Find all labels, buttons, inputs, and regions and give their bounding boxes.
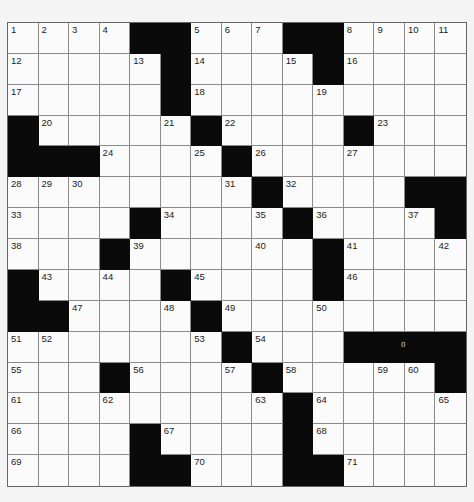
grid-cell[interactable]: [405, 54, 436, 85]
grid-cell[interactable]: [130, 116, 161, 147]
grid-cell[interactable]: [283, 85, 314, 116]
grid-cell[interactable]: 41: [344, 239, 375, 270]
grid-cell[interactable]: [130, 146, 161, 177]
grid-cell[interactable]: [39, 208, 70, 239]
grid-cell[interactable]: [435, 146, 466, 177]
grid-cell[interactable]: 30: [69, 177, 100, 208]
grid-cell[interactable]: 6: [222, 23, 253, 54]
grid-cell[interactable]: 37: [405, 208, 436, 239]
grid-cell[interactable]: 49: [222, 301, 253, 332]
grid-cell[interactable]: 38: [8, 239, 39, 270]
grid-cell[interactable]: 3: [69, 23, 100, 54]
grid-cell[interactable]: [252, 85, 283, 116]
grid-cell[interactable]: [435, 301, 466, 332]
grid-cell[interactable]: 63: [252, 393, 283, 424]
grid-cell[interactable]: 45: [191, 270, 222, 301]
grid-cell[interactable]: 23: [374, 116, 405, 147]
grid-cell[interactable]: 26: [252, 146, 283, 177]
grid-cell[interactable]: [374, 424, 405, 455]
grid-cell[interactable]: 11: [435, 23, 466, 54]
grid-cell[interactable]: [100, 54, 131, 85]
grid-cell[interactable]: [39, 54, 70, 85]
grid-cell[interactable]: 51: [8, 332, 39, 363]
grid-cell[interactable]: [405, 85, 436, 116]
grid-cell[interactable]: [39, 239, 70, 270]
grid-cell[interactable]: [130, 270, 161, 301]
grid-cell[interactable]: [435, 116, 466, 147]
grid-cell[interactable]: [405, 301, 436, 332]
grid-cell[interactable]: 52: [39, 332, 70, 363]
grid-cell[interactable]: [313, 116, 344, 147]
grid-cell[interactable]: [100, 85, 131, 116]
grid-cell[interactable]: 54: [252, 332, 283, 363]
grid-cell[interactable]: 44: [100, 270, 131, 301]
grid-cell[interactable]: [252, 116, 283, 147]
grid-cell[interactable]: 70: [191, 455, 222, 486]
grid-cell[interactable]: [374, 54, 405, 85]
grid-cell[interactable]: [69, 332, 100, 363]
grid-cell[interactable]: [222, 208, 253, 239]
grid-cell[interactable]: [283, 301, 314, 332]
grid-cell[interactable]: [100, 424, 131, 455]
grid-cell[interactable]: 13: [130, 54, 161, 85]
grid-cell[interactable]: 29: [39, 177, 70, 208]
grid-cell[interactable]: 22: [222, 116, 253, 147]
grid-cell[interactable]: [191, 208, 222, 239]
grid-cell[interactable]: [374, 208, 405, 239]
grid-cell[interactable]: [222, 393, 253, 424]
grid-cell[interactable]: [283, 116, 314, 147]
grid-cell[interactable]: [161, 177, 192, 208]
grid-cell[interactable]: [39, 393, 70, 424]
grid-cell[interactable]: [405, 424, 436, 455]
grid-cell[interactable]: [39, 455, 70, 486]
grid-cell[interactable]: [100, 208, 131, 239]
grid-cell[interactable]: [69, 116, 100, 147]
grid-cell[interactable]: [100, 177, 131, 208]
grid-cell[interactable]: [252, 270, 283, 301]
grid-cell[interactable]: 55: [8, 363, 39, 394]
grid-cell[interactable]: 24: [100, 146, 131, 177]
grid-cell[interactable]: [161, 239, 192, 270]
grid-cell[interactable]: 21: [161, 116, 192, 147]
grid-cell[interactable]: [222, 270, 253, 301]
grid-cell[interactable]: 42: [435, 239, 466, 270]
grid-cell[interactable]: 25: [191, 146, 222, 177]
grid-cell[interactable]: [222, 424, 253, 455]
grid-cell[interactable]: 69: [8, 455, 39, 486]
grid-cell[interactable]: [374, 455, 405, 486]
grid-cell[interactable]: 34: [161, 208, 192, 239]
grid-cell[interactable]: [405, 116, 436, 147]
grid-cell[interactable]: [130, 177, 161, 208]
grid-cell[interactable]: 48: [161, 301, 192, 332]
grid-cell[interactable]: [69, 393, 100, 424]
grid-cell[interactable]: 14: [191, 54, 222, 85]
grid-cell[interactable]: [344, 85, 375, 116]
grid-cell[interactable]: 56: [130, 363, 161, 394]
grid-cell[interactable]: [252, 424, 283, 455]
grid-cell[interactable]: 10: [405, 23, 436, 54]
grid-cell[interactable]: [405, 393, 436, 424]
grid-cell[interactable]: 39: [130, 239, 161, 270]
grid-cell[interactable]: [69, 54, 100, 85]
grid-cell[interactable]: [130, 332, 161, 363]
grid-cell[interactable]: [283, 270, 314, 301]
grid-cell[interactable]: 16: [344, 54, 375, 85]
grid-cell[interactable]: 60: [405, 363, 436, 394]
grid-cell[interactable]: 64: [313, 393, 344, 424]
grid-cell[interactable]: [191, 393, 222, 424]
grid-cell[interactable]: [39, 85, 70, 116]
grid-cell[interactable]: [191, 424, 222, 455]
grid-cell[interactable]: [405, 239, 436, 270]
grid-cell[interactable]: [222, 455, 253, 486]
grid-cell[interactable]: [161, 393, 192, 424]
grid-cell[interactable]: [69, 424, 100, 455]
grid-cell[interactable]: 33: [8, 208, 39, 239]
grid-cell[interactable]: [130, 393, 161, 424]
grid-cell[interactable]: 62: [100, 393, 131, 424]
grid-cell[interactable]: [222, 85, 253, 116]
grid-cell[interactable]: 12: [8, 54, 39, 85]
grid-cell[interactable]: [374, 270, 405, 301]
grid-cell[interactable]: [405, 455, 436, 486]
grid-cell[interactable]: [374, 301, 405, 332]
grid-cell[interactable]: [252, 54, 283, 85]
